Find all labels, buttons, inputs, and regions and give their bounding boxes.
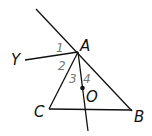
side-CB — [49, 109, 132, 110]
label-O: O — [86, 88, 98, 106]
label-C: C — [34, 103, 45, 121]
geometry-diagram: A B C O Y 1 2 3 4 — [0, 0, 152, 136]
point-O-dot — [80, 86, 85, 91]
ray-AY — [25, 52, 78, 60]
angle-label-2: 2 — [58, 59, 66, 73]
label-Y: Y — [11, 51, 22, 69]
angle-label-4: 4 — [83, 72, 91, 86]
label-B: B — [134, 108, 144, 126]
label-A: A — [79, 37, 90, 55]
angle-label-1: 1 — [56, 41, 64, 55]
angle-label-3: 3 — [69, 72, 77, 86]
